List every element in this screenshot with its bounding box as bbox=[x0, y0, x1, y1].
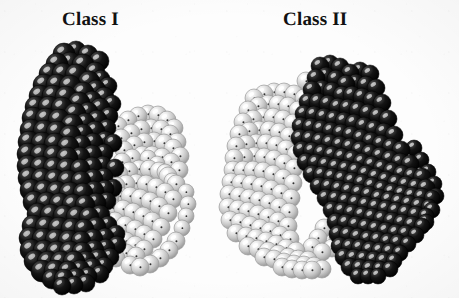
sphere-centre-dot bbox=[282, 118, 284, 120]
sphere-centre-dot bbox=[170, 161, 172, 163]
sphere-centre-dot bbox=[151, 220, 153, 222]
sphere-centre-dot bbox=[152, 238, 154, 240]
figure-canvas: Class I Class II bbox=[0, 0, 459, 298]
sphere-centre-dot bbox=[132, 211, 134, 213]
sphere-centre-dot bbox=[282, 177, 284, 179]
sphere-centre-dot bbox=[292, 182, 294, 184]
sphere-centre-dot bbox=[280, 192, 282, 194]
sphere-centre-dot bbox=[288, 135, 290, 137]
sphere-centre-dot bbox=[137, 115, 139, 117]
panel-label-class-ii: Class II bbox=[283, 9, 347, 31]
sphere-centre-dot bbox=[143, 248, 145, 250]
sphere-centre-dot bbox=[293, 93, 295, 95]
sphere-centre-dot bbox=[311, 269, 313, 271]
sphere-centre-dot bbox=[172, 198, 174, 200]
sphere-centre-dot bbox=[149, 263, 151, 265]
sphere-centre-dot bbox=[125, 183, 127, 185]
sphere-centre-dot bbox=[285, 148, 287, 150]
sphere-centre-dot bbox=[140, 128, 142, 130]
sphere-centre-dot bbox=[186, 191, 188, 193]
sphere-centre-dot bbox=[248, 130, 250, 132]
sphere-centre-dot bbox=[139, 266, 141, 268]
sphere-centre-dot bbox=[268, 202, 270, 204]
sphere-centre-dot bbox=[235, 145, 237, 147]
subunit-group-dark bbox=[17, 41, 126, 295]
sphere-centre-dot bbox=[160, 226, 162, 228]
sphere-centre-dot bbox=[311, 246, 313, 248]
sphere-centre-dot bbox=[270, 188, 272, 190]
sphere-centre-dot bbox=[278, 206, 280, 208]
sphere-centre-dot bbox=[133, 144, 135, 146]
sphere-centre-dot bbox=[143, 141, 145, 143]
sphere-centre-dot bbox=[117, 125, 119, 127]
sphere-centre-dot bbox=[148, 157, 150, 159]
sphere-centre-dot bbox=[269, 230, 271, 232]
sphere-centre-dot bbox=[238, 133, 240, 135]
atom-sphere bbox=[53, 277, 71, 295]
sphere-centre-dot bbox=[263, 93, 265, 95]
sphere-centre-dot bbox=[127, 119, 129, 121]
sphere-centre-dot bbox=[128, 170, 130, 172]
sphere-centre-dot bbox=[130, 132, 132, 134]
panel-label-class-i: Class I bbox=[62, 9, 119, 31]
sphere-centre-dot bbox=[158, 205, 160, 207]
sphere-centre-dot bbox=[245, 143, 247, 145]
sphere-centre-dot bbox=[288, 211, 290, 213]
sphere-centre-dot bbox=[168, 249, 170, 251]
sphere-centre-dot bbox=[252, 118, 254, 120]
sphere-centre-dot bbox=[317, 237, 319, 239]
sphere-centre-dot bbox=[179, 155, 181, 157]
molecular-model-class-ii bbox=[218, 38, 459, 293]
sphere-centre-dot bbox=[283, 162, 285, 164]
sphere-centre-dot bbox=[233, 157, 235, 159]
sphere-centre-dot bbox=[267, 216, 269, 218]
sphere-centre-dot bbox=[293, 167, 295, 169]
sphere-centre-dot bbox=[321, 251, 323, 253]
sphere-centre-dot bbox=[275, 144, 277, 146]
molecular-model-class-i bbox=[0, 38, 230, 293]
sphere-centre-dot bbox=[321, 268, 323, 270]
sphere-centre-dot bbox=[278, 131, 280, 133]
sphere-centre-dot bbox=[272, 173, 274, 175]
sphere-centre-dot bbox=[287, 225, 289, 227]
sphere-centre-dot bbox=[273, 158, 275, 160]
sphere-centre-dot bbox=[188, 203, 190, 205]
sphere-centre-dot bbox=[123, 149, 125, 151]
sphere-centre-dot bbox=[178, 169, 180, 171]
sphere-centre-dot bbox=[243, 156, 245, 158]
atom-sphere bbox=[370, 268, 386, 284]
space-filling-model-svg-class-ii bbox=[218, 38, 459, 293]
sphere-centre-dot bbox=[131, 157, 133, 159]
sphere-centre-dot bbox=[124, 224, 126, 226]
sphere-centre-dot bbox=[175, 183, 177, 185]
space-filling-model-svg-class-i bbox=[0, 38, 230, 293]
sphere-centre-dot bbox=[159, 257, 161, 259]
sphere-centre-dot bbox=[186, 215, 188, 217]
sphere-centre-dot bbox=[323, 227, 325, 229]
sphere-centre-dot bbox=[175, 240, 177, 242]
sphere-centre-dot bbox=[257, 105, 259, 107]
sphere-centre-dot bbox=[182, 227, 184, 229]
sphere-centre-dot bbox=[290, 197, 292, 199]
sphere-centre-dot bbox=[287, 105, 289, 107]
sphere-centre-dot bbox=[277, 220, 279, 222]
sphere-centre-dot bbox=[135, 255, 137, 257]
sphere-centre-dot bbox=[242, 121, 244, 123]
sphere-centre-dot bbox=[167, 212, 169, 214]
